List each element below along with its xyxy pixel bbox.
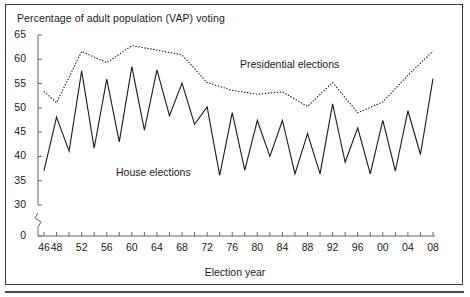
axis-lines: [35, 35, 435, 236]
x-tick-label: 60: [126, 241, 138, 253]
y-tick-label: 50: [4, 101, 26, 113]
y-tick-label: 35: [4, 174, 26, 186]
x-axis-title: Election year: [0, 266, 470, 278]
series-label-presidential: Presidential elections: [240, 58, 339, 70]
series-line-house: [44, 67, 433, 176]
y-tick-label: 0: [4, 229, 26, 241]
x-tick-label: 00: [377, 241, 389, 253]
chart-figure: Percentage of adult population (VAP) vot…: [0, 0, 470, 297]
x-tick-label: 64: [151, 241, 163, 253]
x-tick-label: 48: [51, 241, 63, 253]
x-tick-label: 84: [277, 241, 289, 253]
y-tick-label: 55: [4, 77, 26, 89]
x-tick-label: 56: [101, 241, 113, 253]
x-tick-label: 08: [427, 241, 439, 253]
y-tick-label: 30: [4, 198, 26, 210]
y-tick-label: 65: [4, 28, 26, 40]
x-tick-label: 68: [176, 241, 188, 253]
y-tick-label: 45: [4, 125, 26, 137]
y-tick-label: 40: [4, 149, 26, 161]
x-tick-label: 92: [327, 241, 339, 253]
plot-svg: [34, 33, 438, 242]
x-tick-label: 76: [226, 241, 238, 253]
x-tick-label: 04: [402, 241, 414, 253]
x-tick-label: 72: [201, 241, 213, 253]
x-tick-label: 52: [76, 241, 88, 253]
chart-title: Percentage of adult population (VAP) vot…: [17, 12, 225, 24]
x-tick-label: 80: [251, 241, 263, 253]
series-label-house: House elections: [116, 166, 191, 178]
axis-ticks: [38, 35, 433, 236]
y-tick-label: 60: [4, 52, 26, 64]
x-tick-label: 88: [302, 241, 314, 253]
x-tick-label: 46: [38, 241, 50, 253]
bottom-rule: [5, 291, 464, 293]
x-tick-label: 96: [352, 241, 364, 253]
data-series: [44, 46, 433, 176]
plot-area: [34, 33, 438, 242]
